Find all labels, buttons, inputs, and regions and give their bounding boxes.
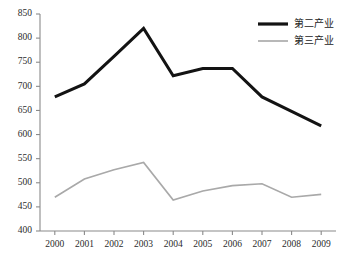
y-tick-label: 550 — [18, 153, 33, 163]
line-chart: 850800750700650600550500450400 200020012… — [0, 0, 344, 263]
legend-label-tertiary-industry: 第三产业 — [294, 34, 334, 46]
x-tick-label: 2007 — [253, 239, 272, 249]
y-tick-label: 850 — [18, 8, 33, 18]
x-tick-label: 2004 — [164, 239, 183, 249]
y-tick-label: 650 — [18, 105, 33, 115]
y-tick-group: 850800750700650600550500450400 — [18, 8, 40, 235]
y-tick-label: 700 — [18, 81, 33, 91]
chart-legend: 第二产业第三产业 — [258, 17, 334, 46]
y-tick-label: 500 — [18, 177, 33, 187]
y-tick-label: 800 — [18, 32, 33, 42]
x-tick-label: 2009 — [312, 239, 331, 249]
x-tick-label: 2005 — [193, 239, 212, 249]
x-axis: 2000200120022003200420052006200720082009 — [40, 231, 336, 249]
x-tick-label: 2000 — [45, 239, 64, 249]
y-tick-label: 750 — [18, 56, 33, 66]
y-tick-label: 400 — [18, 225, 33, 235]
chart-canvas: 850800750700650600550500450400 200020012… — [0, 0, 344, 263]
x-tick-label: 2002 — [105, 239, 124, 249]
y-tick-label: 600 — [18, 129, 33, 139]
y-axis: 850800750700650600550500450400 — [18, 8, 40, 235]
series-line-tertiary-industry — [55, 163, 321, 201]
x-tick-label: 2008 — [282, 239, 301, 249]
series-line-secondary-industry — [55, 28, 321, 125]
x-tick-label: 2006 — [223, 239, 242, 249]
x-tick-label: 2001 — [75, 239, 94, 249]
y-tick-label: 450 — [18, 201, 33, 211]
x-tick-label: 2003 — [134, 239, 153, 249]
x-tick-group: 2000200120022003200420052006200720082009 — [45, 231, 331, 249]
legend-label-secondary-industry: 第二产业 — [294, 17, 334, 29]
